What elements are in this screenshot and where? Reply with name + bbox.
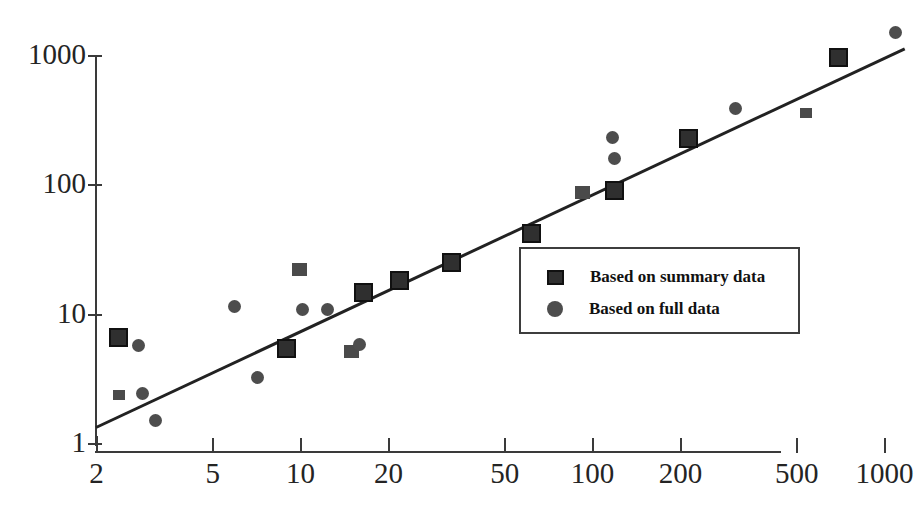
legend-entry-full: Based on full data xyxy=(547,299,720,319)
data-point-full xyxy=(251,371,264,384)
data-point-summary xyxy=(829,48,848,67)
data-point-full xyxy=(132,339,145,352)
x-axis-line xyxy=(95,451,781,453)
x-tick-label-100: 100 xyxy=(547,459,639,488)
data-point-summary xyxy=(109,328,128,347)
y-tick-10 xyxy=(88,314,102,316)
x-tick-50 xyxy=(504,438,506,453)
data-point-full xyxy=(606,131,619,144)
y-tick-label-1000: 1000 xyxy=(0,40,86,69)
data-point-full xyxy=(228,300,241,313)
legend-entry-summary: Based on summary data xyxy=(547,267,765,287)
data-point-full xyxy=(296,303,309,316)
data-point-summary xyxy=(800,108,812,118)
x-tick-label-50: 50 xyxy=(459,459,551,488)
fitted-reference-line xyxy=(95,47,905,429)
x-tick-20 xyxy=(388,438,390,453)
data-point-full xyxy=(608,152,621,165)
data-point-summary xyxy=(605,181,624,200)
data-point-summary xyxy=(679,129,698,148)
x-tick-2 xyxy=(96,436,98,451)
x-tick-5 xyxy=(212,438,214,453)
data-point-summary xyxy=(354,283,373,302)
x-tick-1000 xyxy=(884,438,886,453)
legend-circle-marker-icon xyxy=(547,301,563,317)
legend-square-marker-icon xyxy=(547,270,564,285)
data-point-summary xyxy=(390,271,409,290)
data-point-full xyxy=(353,338,366,351)
legend-box: Based on summary data Based on full data xyxy=(519,247,800,334)
y-tick-label-1: 1 xyxy=(0,428,86,457)
y-tick-1000 xyxy=(88,55,102,57)
data-point-summary xyxy=(442,253,461,272)
x-tick-10 xyxy=(300,438,302,453)
data-point-full xyxy=(136,387,149,400)
y-tick-label-10: 10 xyxy=(0,299,86,328)
x-tick-label-20: 20 xyxy=(343,459,435,488)
y-tick-100 xyxy=(88,184,102,186)
data-point-summary xyxy=(277,339,296,358)
x-tick-label-500: 500 xyxy=(751,459,843,488)
x-tick-label-2: 2 xyxy=(51,459,143,488)
data-point-summary xyxy=(575,186,590,199)
data-point-summary xyxy=(522,224,541,243)
x-tick-label-200: 200 xyxy=(635,459,727,488)
x-tick-100 xyxy=(592,438,594,453)
legend-label-summary: Based on summary data xyxy=(590,267,765,287)
data-point-full xyxy=(889,26,902,39)
y-axis-line xyxy=(95,55,97,446)
x-tick-label-10: 10 xyxy=(255,459,347,488)
data-point-full xyxy=(149,414,162,427)
legend-label-full: Based on full data xyxy=(589,299,720,319)
x-tick-label-1000: 1000 xyxy=(839,459,918,488)
x-tick-label-5: 5 xyxy=(167,459,259,488)
data-point-full xyxy=(729,102,742,115)
x-tick-200 xyxy=(680,438,682,453)
x-tick-500 xyxy=(796,438,798,453)
data-point-summary xyxy=(292,263,307,276)
y-tick-label-100: 100 xyxy=(0,169,86,198)
data-point-summary xyxy=(113,390,125,400)
